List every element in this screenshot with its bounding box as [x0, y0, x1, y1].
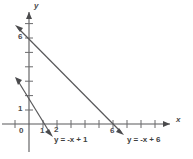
- coordinate-plane-svg: [0, 0, 193, 159]
- y-axis-arrow-icon: [26, 12, 32, 19]
- x-tick-label-0: 0: [19, 127, 23, 135]
- x-tick-label-6: 6: [110, 127, 114, 135]
- y-tick-label-6: 6: [18, 33, 22, 41]
- line-1-upper-arrow-icon: [15, 77, 22, 85]
- equation-label-left: y = -x + 1: [54, 136, 87, 144]
- line-y-equals-neg-x-plus-6: [18, 28, 121, 132]
- y-tick-label-1: 1: [18, 105, 22, 113]
- equation-label-right: y = -x + 6: [127, 136, 160, 144]
- line-graph-figure: y x 6 1 0 1 2 6 y = -x + 1 y = -x + 6: [0, 0, 193, 159]
- x-tick-label-1: 1: [40, 127, 44, 135]
- x-tick-label-2: 2: [54, 126, 58, 134]
- y-axis-label: y: [34, 2, 38, 10]
- line-6-upper-arrow-icon: [15, 25, 23, 32]
- line-1-lower-arrow-icon: [45, 129, 53, 137]
- x-axis-arrow-icon: [163, 121, 170, 127]
- x-axis-label: x: [176, 116, 180, 124]
- line-6-lower-arrow-icon: [116, 128, 124, 135]
